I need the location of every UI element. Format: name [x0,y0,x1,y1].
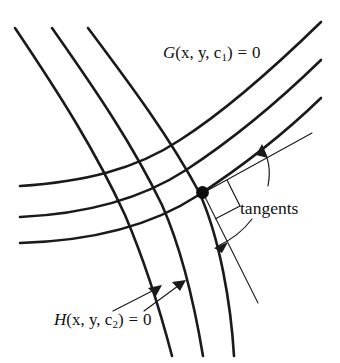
curve-g-3 [20,98,321,243]
tangent-lines [203,133,312,303]
label-g-equals: = 0 [233,43,261,62]
right-angle-marker [215,180,240,219]
arrowhead-curve-h [148,285,162,296]
label-h-equals: = 0 [124,310,152,329]
curve-h-1 [15,28,172,356]
label-h-function: H [54,310,66,329]
label-curve-family-g: G(x, y, c1) = 0 [163,44,261,63]
annotation-arrows [113,148,269,311]
arrow-to-curve-g [144,283,182,311]
label-g-function: G [163,43,175,62]
curve-h-2 [52,28,203,356]
label-h-args: (x, y, c [66,310,112,329]
label-tangents: tangents [240,200,298,218]
label-curve-family-h: H(x, y, c2) = 0 [54,311,152,330]
tangent-line-upper [203,133,312,193]
label-g-args: (x, y, c [175,43,221,62]
curve-h-3 [88,28,234,356]
orthogonal-curves-figure: G(x, y, c1) = 0 H(x, y, c2) = 0 tangents [0,0,340,363]
intersection-point [196,186,209,199]
arrow-to-curve-h [113,288,158,311]
